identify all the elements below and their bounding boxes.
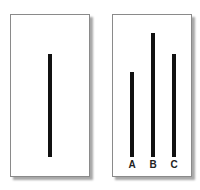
comparison-line-c <box>172 54 176 157</box>
label-c: C <box>168 159 180 170</box>
comparison-line-b <box>151 33 155 157</box>
comparison-card: A B C <box>112 14 192 177</box>
reference-card <box>10 14 90 177</box>
label-b: B <box>147 159 159 170</box>
comparison-line-a <box>130 72 134 157</box>
label-a: A <box>126 159 138 170</box>
reference-line <box>48 54 52 157</box>
